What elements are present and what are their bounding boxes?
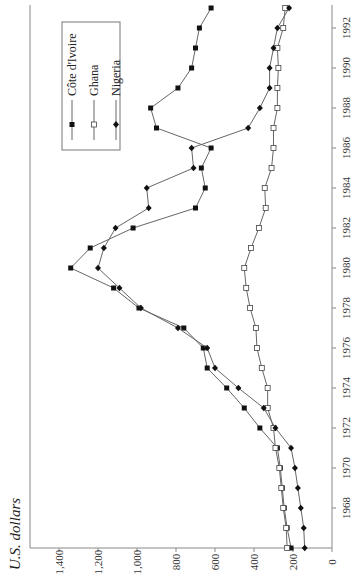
value-tick-label: 0 [326, 559, 338, 565]
unit-label: U.S. dollars [7, 498, 23, 570]
data-point-marker [271, 146, 276, 151]
data-point-marker [274, 25, 280, 31]
data-point-marker [248, 306, 253, 311]
data-point-marker [193, 206, 198, 211]
value-tick-label: 1,200 [92, 549, 104, 574]
data-point-marker [205, 366, 210, 371]
data-point-marker [262, 186, 267, 191]
data-point-marker [203, 186, 208, 191]
data-point-marker [154, 126, 159, 131]
data-point-marker [244, 286, 249, 291]
data-point-marker [131, 226, 136, 231]
data-point-marker [275, 86, 280, 91]
data-point-marker [275, 106, 280, 111]
data-point-marker [257, 105, 263, 111]
data-point-marker [242, 406, 247, 411]
data-point-marker [285, 546, 290, 551]
svg-text:Nigeria: Nigeria [109, 59, 123, 96]
data-point-marker [101, 245, 107, 251]
data-point-marker [144, 185, 150, 191]
data-point-marker [68, 266, 73, 271]
open-square-marker-icon [92, 122, 97, 127]
year-tick-label: 1992 [340, 17, 352, 39]
data-point-marker [199, 166, 204, 171]
data-point-marker [209, 6, 214, 11]
year-tick-label: 1990 [340, 57, 352, 80]
data-point-marker [242, 266, 247, 271]
data-point-marker [265, 386, 270, 391]
data-point-marker [224, 386, 229, 391]
year-tick-label: 1972 [340, 417, 352, 439]
year-tick-label: 1980 [340, 257, 352, 280]
data-point-marker [277, 466, 282, 471]
data-point-marker [302, 545, 308, 551]
income-line-chart: 1,4001,2001,0008006004002000 19681970197… [0, 0, 364, 574]
data-point-marker [245, 125, 251, 131]
data-point-marker [267, 65, 273, 71]
data-point-marker [281, 26, 286, 31]
data-point-marker [189, 66, 194, 71]
year-tick-label: 1982 [340, 217, 352, 239]
data-point-marker [298, 505, 304, 511]
data-point-marker [271, 126, 276, 131]
data-point-marker [259, 366, 264, 371]
value-axis: 1,4001,2001,0008006004002000 [53, 548, 338, 574]
data-point-marker [281, 506, 286, 511]
data-point-marker [257, 426, 262, 431]
data-point-marker [256, 226, 261, 231]
data-point-marker [284, 526, 289, 531]
data-point-marker [263, 206, 268, 211]
value-tick-label: 1,400 [53, 549, 65, 574]
data-point-marker [292, 465, 298, 471]
data-point-marker [279, 486, 284, 491]
data-point-marker [301, 525, 307, 531]
year-tick-label: 1984 [340, 177, 352, 200]
value-tick-label: 800 [170, 553, 182, 570]
data-point-marker [191, 165, 197, 171]
svg-text:Côte d'Ivoire: Côte d'Ivoire [65, 34, 79, 96]
data-point-marker [193, 46, 198, 51]
data-point-marker [295, 485, 301, 491]
year-tick-label: 1978 [340, 297, 352, 320]
data-point-marker [253, 326, 258, 331]
legend: Côte d'Ivoire Ghana Nigeria [62, 22, 123, 150]
svg-text:Ghana: Ghana [87, 64, 101, 96]
year-tick-label: 1976 [340, 337, 352, 360]
year-tick-label: 1986 [340, 137, 352, 160]
value-tick-label: 200 [287, 553, 299, 570]
data-point-marker [88, 246, 93, 251]
value-tick-label: 1,000 [131, 549, 143, 574]
data-point-marker [267, 85, 273, 91]
data-point-marker [111, 286, 116, 291]
data-point-marker [276, 66, 281, 71]
data-point-marker [175, 325, 181, 331]
data-point-marker [249, 246, 254, 251]
data-point-marker [175, 86, 180, 91]
data-point-marker [148, 106, 153, 111]
data-point-marker [181, 326, 186, 331]
data-point-marker [189, 145, 195, 151]
year-tick-label: 1970 [340, 457, 352, 480]
data-point-marker [269, 166, 274, 171]
year-axis: 1968197019721974197619781980198219841986… [332, 17, 352, 519]
data-point-marker [113, 225, 119, 231]
filled-square-marker-icon [70, 122, 75, 127]
data-point-marker [146, 205, 152, 211]
year-tick-label: 1988 [340, 97, 352, 120]
data-point-marker [197, 26, 202, 31]
value-tick-label: 600 [209, 553, 221, 570]
year-tick-label: 1968 [340, 497, 352, 520]
data-point-marker [254, 346, 259, 351]
value-tick-label: 400 [248, 553, 260, 570]
data-point-marker [273, 446, 278, 451]
data-point-marker [209, 146, 214, 151]
year-tick-label: 1974 [340, 377, 352, 400]
